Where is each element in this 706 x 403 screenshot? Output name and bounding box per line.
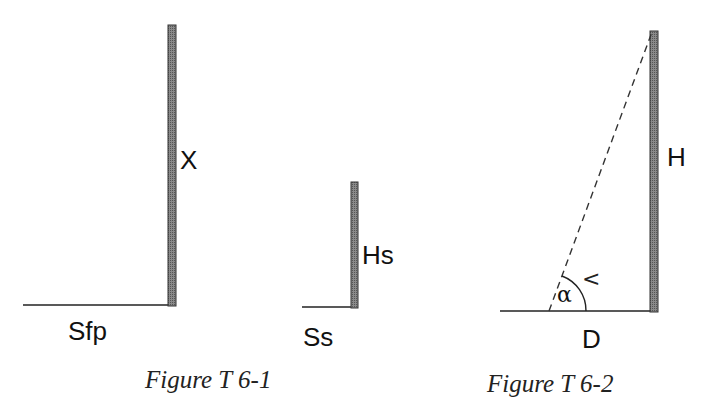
label-ss: Ss [303,324,333,350]
caption-figure-2: Figure T 6-2 [487,371,613,396]
label-alpha: α [557,284,572,306]
label-hs: Hs [362,242,394,268]
figure-2-group [500,31,658,312]
label-sfp: Sfp [68,318,107,344]
short-wall [351,182,358,308]
label-d: D [582,326,601,352]
angle-marker-icon: < [582,268,600,290]
tall-wall [168,25,176,306]
caption-figure-1: Figure T 6-1 [145,367,271,392]
sightline-dashed [549,32,652,311]
wall-h [650,31,658,312]
label-h: H [667,144,686,170]
label-x: X [180,147,197,173]
figure-1-tall-wall-group [23,25,176,306]
figure-1-short-wall-group [302,182,358,308]
